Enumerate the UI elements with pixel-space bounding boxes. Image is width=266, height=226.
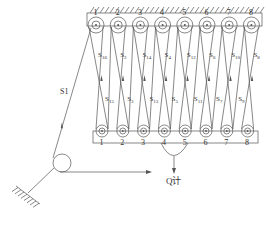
bottom-sheave-number: 1 [100, 138, 104, 147]
top-sheave-axle [117, 24, 119, 26]
winch-rope-arrow [146, 170, 152, 174]
rope-segment [133, 27, 149, 129]
anchor-hatch-mark [30, 201, 36, 205]
upper-rope-label: S2 [120, 51, 127, 60]
rope-arrow [100, 75, 102, 81]
lower-rope-label: S13 [149, 95, 158, 104]
bottom-sheave-number: 2 [120, 138, 124, 147]
rope-segment [150, 27, 156, 129]
hatch-mark [235, 7, 239, 13]
rope-arrow [143, 75, 145, 81]
hatch-mark [240, 7, 244, 13]
rope-segment [89, 27, 108, 129]
lower-rope-label: S3 [127, 95, 134, 104]
lower-rope-label: S5 [172, 95, 179, 104]
bottom-sheave-number: 7 [224, 138, 228, 147]
anchor-hatch-mark [12, 188, 18, 192]
hatch-mark [200, 7, 204, 13]
hatch-mark [195, 7, 199, 13]
top-sheave-axle [184, 24, 186, 26]
upper-rope-label: S16 [98, 51, 107, 60]
rope-segment [233, 27, 245, 129]
rope-arrow [229, 75, 231, 81]
rope-segment [222, 27, 233, 129]
rope-arrow [122, 75, 124, 81]
top-sheave-numbers: 12345678 [94, 8, 253, 17]
bottom-sheave-axle [101, 130, 103, 132]
anchor-hatch-mark [18, 192, 24, 196]
bottom-block-frame [93, 131, 258, 143]
rope-segment [111, 27, 129, 129]
upper-rope-label: S14 [142, 51, 151, 60]
bottom-sheave-axle [226, 130, 228, 132]
bottom-sheave-axle [143, 130, 145, 132]
bottom-sheave-axle [122, 130, 124, 132]
top-sheave-axle [139, 24, 141, 26]
hatch-mark [260, 7, 264, 13]
hatch-mark [125, 7, 129, 13]
lead-rope-label: S1 [60, 87, 68, 96]
rope-segment [129, 27, 134, 129]
anchor-hatch-mark [15, 190, 21, 194]
upper-rope-label: S10 [231, 51, 240, 60]
lower-rope-labels: S15S3S13S5S11S7S9 [105, 95, 245, 104]
upper-rope-label: S4 [165, 51, 172, 60]
lower-rope-label: S11 [194, 95, 203, 104]
lead-rope [53, 28, 91, 158]
lower-rope-label: S7 [216, 95, 223, 104]
anchor-hatch-mark [24, 197, 30, 201]
load-label: Q计 [166, 175, 182, 186]
top-sheave-number: 7 [227, 8, 231, 17]
rope-arrow [186, 75, 188, 81]
bottom-sheave-axle [184, 130, 186, 132]
rope-segment [212, 27, 222, 129]
upper-rope-labels: S16S2S14S4S12S6S10S8 [98, 51, 260, 60]
bottom-sheave-numbers: 12345678 [100, 138, 250, 147]
hatch-mark [120, 7, 124, 13]
ground-anchor-hatch [12, 186, 40, 207]
bottom-sheave-number: 6 [204, 138, 208, 147]
hatch-mark [130, 7, 134, 13]
top-sheaves [88, 17, 259, 33]
rope-segment [117, 27, 125, 129]
top-sheave-number: 1 [94, 8, 98, 17]
lower-rope-label: S15 [105, 95, 114, 104]
top-sheave-axle [250, 24, 252, 26]
hatch-mark [110, 7, 114, 13]
hatch-mark [190, 7, 194, 13]
upper-rope-label: S6 [209, 51, 216, 60]
rope-arrow [251, 75, 253, 81]
top-sheave-axle [228, 24, 230, 26]
rope-segment [221, 27, 236, 129]
top-sheave-axle [162, 24, 164, 26]
lower-rope-label: S9 [238, 95, 245, 104]
hatch-mark [105, 7, 109, 13]
bottom-sheave-axle [205, 130, 207, 132]
top-sheave-number: 3 [138, 8, 142, 17]
hatch-mark [215, 7, 219, 13]
hatch-mark [100, 7, 104, 13]
rope-segment [108, 27, 111, 129]
hatch-mark [210, 7, 214, 13]
hatch-mark [145, 7, 149, 13]
rope-segment [138, 27, 148, 129]
hatch-mark [175, 7, 179, 13]
anchor-hatch-mark [21, 194, 27, 198]
top-sheave-axle [206, 24, 208, 26]
upper-rope-label: S12 [187, 51, 196, 60]
hatch-mark [165, 7, 169, 13]
top-sheave-axle [95, 24, 97, 26]
hatch-mark [170, 7, 174, 13]
rope-lines [89, 27, 258, 129]
rope-segment [178, 27, 191, 129]
top-sheave-number: 8 [249, 8, 253, 17]
hatch-mark [220, 7, 224, 13]
bottom-sheave-axle [247, 130, 249, 132]
upper-rope-label: S8 [253, 51, 260, 60]
hatch-mark [150, 7, 154, 13]
bottom-sheave-number: 3 [141, 138, 145, 147]
anchor-hatch-mark [33, 203, 39, 207]
top-block-frame [87, 13, 262, 26]
guide-pulley [53, 154, 71, 172]
anchor-hatch-mark [27, 199, 33, 203]
